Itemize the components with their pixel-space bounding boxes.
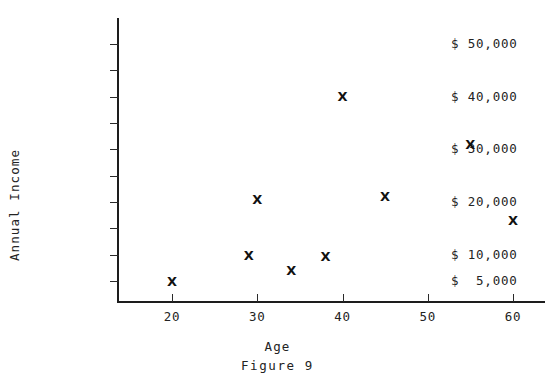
y-axis-tick-label: $ 50,000 xyxy=(451,36,555,51)
y-axis-tick-label: $ 10,000 xyxy=(451,247,555,262)
y-axis-line xyxy=(117,18,119,303)
data-point-marker: X xyxy=(242,249,255,262)
data-point-marker: X xyxy=(251,193,264,206)
x-axis-tick-label: 40 xyxy=(321,309,365,324)
y-axis-tick-label: $ 40,000 xyxy=(451,89,555,104)
x-axis-title: Age xyxy=(0,339,555,354)
y-axis-tick xyxy=(110,228,119,229)
y-axis-tick-label: $ 5,000 xyxy=(451,273,555,288)
data-point-marker: X xyxy=(319,250,332,263)
x-axis-line xyxy=(117,301,545,303)
x-axis-tick-label: 20 xyxy=(150,309,194,324)
data-point-marker: X xyxy=(166,275,179,288)
scatter-plot-figure: $ 50,000$ 40,000$ 30,000$ 20,000$ 10,000… xyxy=(0,0,555,390)
x-axis-tick xyxy=(257,294,258,302)
x-axis-tick xyxy=(428,294,429,302)
y-axis-tick xyxy=(110,176,119,177)
y-axis-title: Annual Income xyxy=(7,149,22,261)
y-axis-tick xyxy=(110,123,119,124)
x-axis-tick xyxy=(172,294,173,302)
x-axis-tick xyxy=(513,294,514,302)
data-point-marker: X xyxy=(285,264,298,277)
y-axis-tick xyxy=(110,149,119,150)
data-point-marker: X xyxy=(464,138,477,151)
y-axis-tick xyxy=(110,70,119,71)
y-axis-tick xyxy=(110,281,119,282)
y-axis-tick xyxy=(110,97,119,98)
x-axis-tick xyxy=(343,294,344,302)
data-point-marker: X xyxy=(507,214,520,227)
y-axis-tick xyxy=(110,44,119,45)
figure-caption: Figure 9 xyxy=(0,358,555,373)
x-axis-tick-label: 30 xyxy=(235,309,279,324)
data-point-marker: X xyxy=(336,90,349,103)
y-axis-tick xyxy=(110,202,119,203)
x-axis-tick-label: 60 xyxy=(491,309,535,324)
x-axis-tick-label: 50 xyxy=(406,309,450,324)
data-point-marker: X xyxy=(379,190,392,203)
y-axis-tick-label: $ 20,000 xyxy=(451,194,555,209)
y-axis-tick xyxy=(110,255,119,256)
